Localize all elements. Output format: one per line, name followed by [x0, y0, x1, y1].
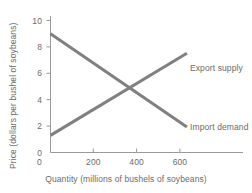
x-tick-label-0: 0 [37, 157, 42, 167]
series-line-import-demand [51, 34, 187, 127]
x-axis-title: Quantity (millions of bushels of soybean… [0, 174, 252, 184]
x-tick-label-600: 600 [173, 157, 187, 167]
chart-container: 10 8 6 4 2 0 0 200 400 600 Price (dollar… [0, 0, 252, 193]
series-label-import-demand: Import demand [190, 122, 248, 132]
y-tick-label-0: 0 [18, 148, 42, 158]
series-line-export-supply [51, 53, 187, 135]
y-tick-label-4: 4 [18, 95, 42, 105]
y-tick-label-2: 2 [18, 121, 42, 131]
y-axis-ticks [47, 21, 51, 127]
y-tick-label-10: 10 [18, 16, 42, 26]
x-tick-label-400: 400 [129, 157, 143, 167]
series-label-export-supply: Export supply [190, 63, 243, 73]
y-tick-label-6: 6 [18, 68, 42, 78]
y-axis-title: Price (dollars per bushel of soybeans) [8, 29, 18, 169]
y-tick-label-8: 8 [18, 42, 42, 52]
x-tick-label-200: 200 [86, 157, 100, 167]
x-axis-ticks [93, 149, 180, 153]
